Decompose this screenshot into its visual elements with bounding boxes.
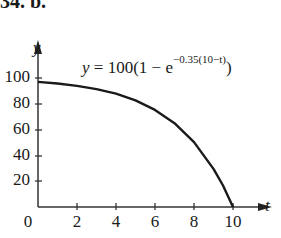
equation-rhs: = 100(1 − e <box>90 58 173 77</box>
equation-exponent: −0.35(10−t) <box>173 53 226 65</box>
y-axis-label: y <box>33 38 41 58</box>
x-tick-label: 8 <box>179 212 209 232</box>
y-tick-label: 40 <box>0 145 30 165</box>
function-curve <box>38 82 233 207</box>
x-tick-label: 2 <box>62 212 92 232</box>
equation-close: ) <box>226 58 232 77</box>
chart-canvas <box>0 0 281 238</box>
equation-lhs: y <box>82 58 90 77</box>
x-tick-label: 0 <box>13 212 43 232</box>
x-tick-label: 6 <box>140 212 170 232</box>
x-tick-label: 4 <box>101 212 131 232</box>
y-tick-label: 60 <box>0 119 30 139</box>
y-tick-label: 20 <box>0 170 30 190</box>
y-tick-label: 100 <box>0 67 30 87</box>
equation-annotation: y = 100(1 − e−0.35(10−t)) <box>82 56 232 78</box>
x-axis-label: t <box>265 196 270 216</box>
y-tick-label: 80 <box>0 93 30 113</box>
x-tick-label: 10 <box>218 212 248 232</box>
